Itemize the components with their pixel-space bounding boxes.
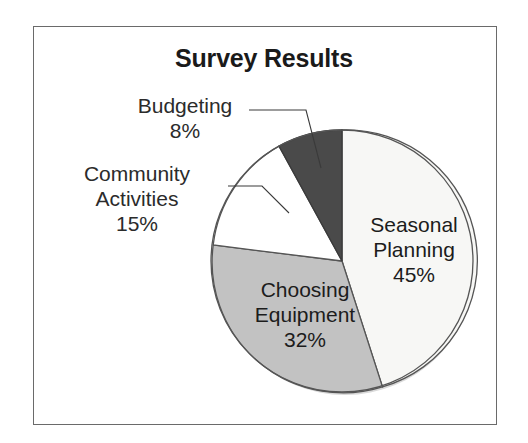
slice-label-community-activities: Community Activities 15%: [44, 161, 230, 236]
slice-label-choosing-equipment-value: 32%: [232, 327, 378, 352]
slice-label-seasonal-planning-name-2: Planning: [355, 237, 473, 262]
slice-label-seasonal-planning: Seasonal Planning 45%: [355, 212, 473, 287]
slice-label-community-activities-value: 15%: [44, 211, 230, 236]
slice-label-community-activities-name-1: Community: [44, 161, 230, 186]
slice-label-seasonal-planning-name-1: Seasonal: [355, 212, 473, 237]
slice-label-choosing-equipment: Choosing Equipment 32%: [232, 277, 378, 352]
slice-label-budgeting: Budgeting 8%: [118, 93, 252, 143]
slice-label-choosing-equipment-name-2: Equipment: [232, 302, 378, 327]
slice-label-budgeting-name: Budgeting: [118, 93, 252, 118]
slice-label-community-activities-name-2: Activities: [44, 186, 230, 211]
slice-label-budgeting-value: 8%: [118, 118, 252, 143]
slice-label-choosing-equipment-name-1: Choosing: [232, 277, 378, 302]
pie-chart-figure: Survey Results Budgeting 8% Community Ac…: [0, 0, 528, 443]
